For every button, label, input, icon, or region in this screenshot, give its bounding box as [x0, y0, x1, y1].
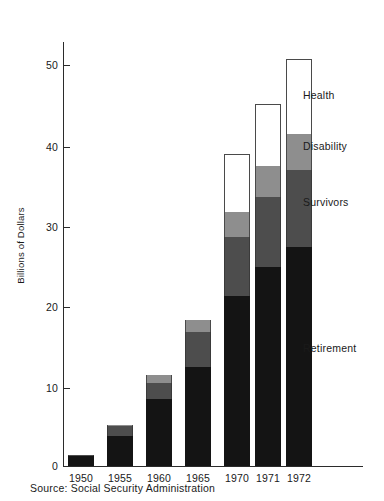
y-tick-label-40: 40	[34, 141, 58, 153]
stacked-bar-chart: 50 40 30 20 10 0 Billions of Dollars 195…	[0, 0, 384, 501]
bar-segment-disability	[255, 166, 281, 197]
bar-segment-health	[224, 154, 250, 213]
bar-segment-disability	[185, 320, 211, 333]
bar-1960	[146, 375, 172, 466]
legend-label-survivors: Survivors	[303, 196, 349, 208]
y-tick-label-10: 10	[34, 382, 58, 394]
bar-segment-retirement	[146, 399, 172, 466]
bar-1955	[107, 425, 133, 466]
legend-label-retirement: Retirement	[303, 342, 356, 354]
bar-segment-health	[255, 104, 281, 166]
legend-label-disability: Disability	[303, 140, 347, 152]
bar-segment-survivors	[107, 426, 133, 436]
bar-1965	[185, 320, 211, 466]
bar-segment-retirement	[255, 267, 281, 466]
bar-1970	[224, 154, 250, 466]
bar-1950	[68, 455, 94, 466]
x-axis-label-1972: 1972	[279, 472, 319, 484]
bar-segment-survivors	[224, 237, 250, 296]
y-tick-label-30: 30	[34, 221, 58, 233]
bar-segment-disability	[224, 212, 250, 237]
bar-segment-retirement	[185, 367, 211, 466]
y-tick-mark-30	[63, 227, 70, 228]
y-axis-title: Billions of Dollars	[15, 186, 26, 306]
bar-segment-disability	[146, 375, 172, 383]
source-note: Source: Social Security Administration	[30, 482, 215, 494]
y-tick-label-50: 50	[34, 59, 58, 71]
bar-segment-retirement	[68, 456, 94, 466]
bar-segment-survivors	[255, 197, 281, 267]
bar-segment-retirement	[286, 247, 312, 466]
bar-1972	[286, 59, 312, 466]
bar-segment-survivors	[146, 383, 172, 399]
y-tick-mark-20	[63, 307, 70, 308]
bar-segment-survivors	[185, 332, 211, 367]
x-axis-line	[63, 466, 363, 467]
bar-segment-retirement	[224, 296, 250, 466]
y-tick-label-0: 0	[34, 460, 58, 472]
y-tick-mark-50	[63, 65, 70, 66]
y-tick-mark-10	[63, 388, 70, 389]
legend-label-health: Health	[303, 89, 335, 101]
bar-1971	[255, 104, 281, 466]
y-tick-label-20: 20	[34, 301, 58, 313]
bar-segment-survivors	[286, 170, 312, 246]
y-tick-mark-40	[63, 147, 70, 148]
bar-segment-retirement	[107, 436, 133, 466]
y-axis-line	[63, 42, 64, 467]
